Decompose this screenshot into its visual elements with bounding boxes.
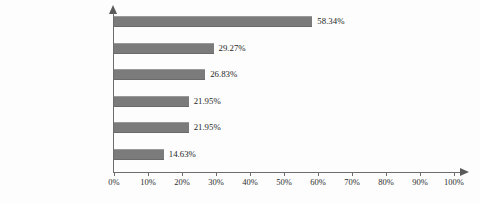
- x-axis-arrow-icon: [460, 168, 469, 176]
- x-tick-mark: [352, 172, 353, 176]
- x-tick-mark: [250, 172, 251, 176]
- bar-value-label: 26.83%: [210, 68, 237, 81]
- bar-chart: 0%10%20%30%40%50%60%70%80%90%100% 财务与业务集…: [0, 0, 480, 204]
- x-tick-label: 0%: [108, 177, 119, 188]
- bar-value-label: 21.95%: [194, 95, 221, 108]
- x-tick-label: 60%: [310, 177, 326, 188]
- x-tick-label: 20%: [174, 177, 190, 188]
- x-tick-label: 70%: [344, 177, 360, 188]
- x-tick-label: 80%: [378, 177, 394, 188]
- bar-value-label: 21.95%: [194, 121, 221, 134]
- bar: [114, 149, 164, 160]
- bar: [114, 69, 205, 80]
- x-tick-label: 90%: [412, 177, 428, 188]
- plot-area: 0%10%20%30%40%50%60%70%80%90%100% 财务与业务集…: [0, 0, 480, 204]
- bar-value-label: 58.34%: [317, 15, 344, 28]
- x-tick-label: 50%: [276, 177, 292, 188]
- x-tick-mark: [216, 172, 217, 176]
- bar: [114, 96, 189, 107]
- x-tick-mark: [454, 172, 455, 176]
- x-tick-mark: [114, 172, 115, 176]
- x-tick-mark: [182, 172, 183, 176]
- x-tick-mark: [420, 172, 421, 176]
- x-tick-mark: [318, 172, 319, 176]
- x-tick-mark: [284, 172, 285, 176]
- bar-value-label: 29.27%: [219, 42, 246, 55]
- x-axis-line: [113, 172, 462, 173]
- bar: [114, 43, 214, 54]
- x-tick-mark: [386, 172, 387, 176]
- x-tick-mark: [148, 172, 149, 176]
- bar: [114, 16, 312, 27]
- bar-value-label: 14.63%: [169, 148, 196, 161]
- x-tick-label: 40%: [242, 177, 258, 188]
- bar: [114, 122, 189, 133]
- x-tick-label: 30%: [208, 177, 224, 188]
- x-tick-label: 10%: [140, 177, 156, 188]
- x-tick-label: 100%: [444, 177, 464, 188]
